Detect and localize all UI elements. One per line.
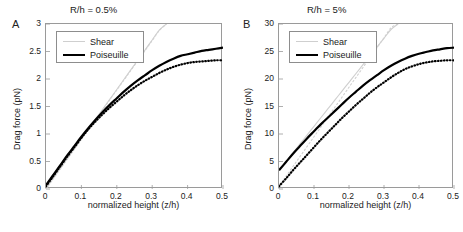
- y-tick-label: 15: [252, 101, 274, 111]
- panel-b-x-axis-label: normalized height (z/h): [278, 200, 453, 210]
- series-poiseuille-dotted: [46, 60, 223, 186]
- y-tick-label: 1.5: [19, 101, 41, 111]
- panel-b: B R/h = 5% Drag force (pN) Shear Poiseui…: [231, 0, 463, 232]
- panel-a-x-axis-label: normalized height (z/h): [45, 200, 222, 210]
- y-tick-label: 20: [252, 73, 274, 83]
- legend-label-poiseuille: Poiseuille: [323, 50, 362, 60]
- series-poiseuille-dotted: [279, 60, 454, 186]
- series-poiseuille: [279, 48, 454, 171]
- y-tick-label: 30: [252, 18, 274, 28]
- panel-a-y-axis-label: Drag force (pN): [12, 88, 22, 150]
- y-tick-label: 3: [19, 18, 41, 28]
- poiseuille-line-icon: [296, 54, 318, 56]
- poiseuille-line-icon: [63, 54, 85, 56]
- y-tick-label: 2.5: [19, 46, 41, 56]
- panel-b-letter: B: [243, 18, 250, 30]
- legend-row-poiseuille: Poiseuille: [290, 48, 376, 61]
- y-tick-label: 10: [252, 128, 274, 138]
- figure-root: A R/h = 0.5% Drag force (pN) Shear Poise…: [0, 0, 463, 232]
- legend-label-shear: Shear: [90, 37, 114, 47]
- panel-b-title: R/h = 5%: [307, 4, 346, 15]
- legend-row-shear: Shear: [57, 35, 143, 48]
- y-tick-label: 1: [19, 128, 41, 138]
- legend-label-shear: Shear: [323, 37, 347, 47]
- legend-label-poiseuille: Poiseuille: [90, 50, 129, 60]
- panel-a-title: R/h = 0.5%: [70, 4, 117, 15]
- legend-row-poiseuille: Poiseuille: [57, 48, 143, 61]
- y-tick-label: 25: [252, 46, 274, 56]
- y-tick-label: 2: [19, 73, 41, 83]
- panel-a: A R/h = 0.5% Drag force (pN) Shear Poise…: [0, 0, 232, 232]
- shear-line-icon: [296, 41, 318, 42]
- y-tick-label: 0.5: [19, 156, 41, 166]
- series-poiseuille: [46, 48, 223, 186]
- y-tick-label: 5: [252, 156, 274, 166]
- panel-a-legend: Shear Poiseuille: [56, 31, 144, 63]
- panel-b-y-axis-label: Drag force (pN): [243, 88, 253, 150]
- legend-row-shear: Shear: [290, 35, 376, 48]
- panel-b-legend: Shear Poiseuille: [289, 31, 377, 63]
- shear-line-icon: [63, 41, 85, 42]
